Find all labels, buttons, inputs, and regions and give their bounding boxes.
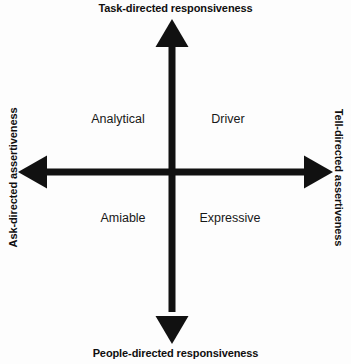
social-styles-diagram: Task-directed responsiveness People-dire… <box>0 0 351 364</box>
axes-cross <box>0 0 351 364</box>
arrow-left-icon <box>18 156 47 189</box>
vertical-axis-shaft <box>169 40 176 312</box>
arrow-right-icon <box>304 156 333 189</box>
horizontal-axis-shaft <box>40 169 312 176</box>
arrow-down-icon <box>156 316 189 344</box>
quadrant-label-expressive: Expressive <box>170 211 290 225</box>
quadrant-label-driver: Driver <box>168 112 288 126</box>
quadrant-label-amiable: Amiable <box>63 211 183 225</box>
arrow-up-icon <box>156 19 189 47</box>
quadrant-label-analytical: Analytical <box>58 112 178 126</box>
